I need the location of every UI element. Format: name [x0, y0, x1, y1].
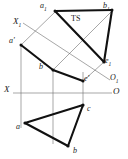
point-b1 [111, 9, 114, 12]
top-view-triangle [25, 105, 83, 146]
label-a: a [16, 123, 20, 131]
label-ts: TS [71, 15, 81, 23]
front-view-triangle [21, 45, 83, 81]
label-o1: O1 [110, 74, 119, 84]
auxiliary-view-triangle [55, 10, 112, 62]
label-b1: b1 [103, 2, 110, 12]
point-b [66, 144, 69, 147]
edge-aprime-bprime [21, 45, 53, 70]
edge-bprime-eprime [53, 70, 83, 81]
edge-a-c [25, 105, 83, 123]
label-e1: e1 [105, 57, 111, 67]
label-e-prime: e' [84, 75, 89, 83]
label-x1: X1 [13, 17, 21, 28]
label-o: O [113, 87, 120, 96]
axis-line-x1-o1 [23, 23, 110, 80]
point-c [81, 103, 84, 106]
label-x: X [4, 85, 10, 94]
label-b: b [73, 147, 77, 155]
projector-a [21, 12, 55, 45]
label-b-prime: b' [39, 63, 45, 71]
point-aprime [20, 44, 23, 47]
label-a-prime: a' [9, 37, 15, 45]
point-a [23, 121, 26, 124]
figure-canvas: a1 b1 TS X1 a' e1 b' e' O1 X O c a b [0, 0, 128, 159]
edge-c-b [68, 105, 83, 146]
edge-a-b [25, 123, 68, 146]
point-a1 [54, 10, 57, 13]
point-bprime [52, 69, 55, 72]
label-c: c [87, 105, 91, 113]
label-a1: a1 [40, 2, 47, 12]
